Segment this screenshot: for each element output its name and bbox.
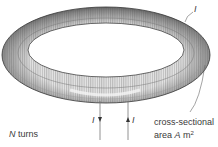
current-label-in: I	[92, 115, 95, 126]
current-label-top: I	[194, 4, 197, 15]
toroid-coil	[2, 7, 210, 103]
lead-wires	[98, 101, 130, 140]
arrow-up-icon	[126, 117, 130, 122]
area-label-line1: cross-sectional	[154, 117, 214, 128]
area-exponent: 2	[191, 130, 194, 136]
turns-text: turns	[16, 129, 39, 139]
arrow-down-icon	[98, 117, 102, 122]
area-unit: m	[181, 130, 191, 140]
area-prefix: area	[154, 130, 175, 140]
area-label-line2: area A m2	[154, 128, 194, 141]
turns-label: N turns	[9, 129, 38, 140]
current-label-out: I	[132, 115, 135, 126]
current-leader-line	[185, 12, 193, 22]
